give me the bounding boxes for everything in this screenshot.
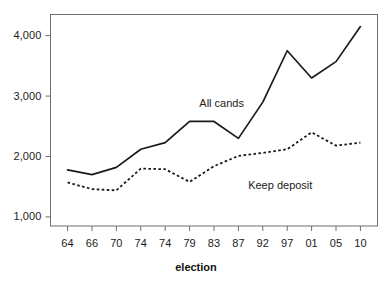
x-axis-title: election [0, 262, 392, 273]
x-tick-label: 10 [340, 238, 380, 249]
y-tick-label: 4,000 [0, 30, 42, 41]
y-tick-label: 3,000 [0, 91, 42, 102]
series-annotation-all-cands: All cands [199, 98, 244, 109]
y-axis-tick-marks [46, 36, 51, 217]
line-chart: 1,0002,0003,0004,000 6466707474798387929… [0, 0, 392, 288]
y-tick-label: 2,000 [0, 151, 42, 162]
y-tick-label: 1,000 [0, 211, 42, 222]
plot-frame [51, 15, 378, 227]
series-annotation-keep-deposit: Keep deposit [248, 180, 312, 191]
series-line-keep-deposit [68, 132, 361, 190]
x-axis-tick-marks [68, 226, 361, 231]
